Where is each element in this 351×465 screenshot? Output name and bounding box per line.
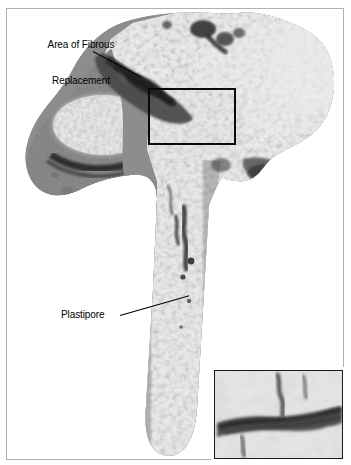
region-of-interest-box [148, 88, 236, 145]
label-area-of-fibrous-replacement: Area of Fibrous Replacement [26, 15, 136, 111]
label-fibrous-line2: Replacement [26, 75, 136, 87]
histology-figure: Area of Fibrous Replacement Plastipore [0, 0, 351, 465]
label-fibrous-line1: Area of Fibrous [26, 39, 136, 51]
magnified-inset-panel [214, 370, 343, 459]
label-plastipore: Plastipore [61, 309, 104, 321]
